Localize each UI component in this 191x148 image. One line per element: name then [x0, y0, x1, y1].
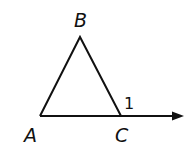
triangle-diagram: B A C 1 — [0, 0, 191, 148]
triangle-sides — [40, 37, 121, 116]
arrowhead-icon — [172, 112, 184, 121]
vertex-c-label: C — [115, 124, 129, 146]
vertex-b-label: B — [74, 9, 87, 31]
vertex-a-label: A — [22, 124, 37, 146]
angle-1-label: 1 — [124, 94, 134, 113]
